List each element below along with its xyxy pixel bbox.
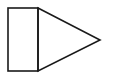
triangle-shape xyxy=(38,8,100,71)
rectangle-shape xyxy=(8,8,38,71)
diagram-canvas xyxy=(0,0,121,83)
